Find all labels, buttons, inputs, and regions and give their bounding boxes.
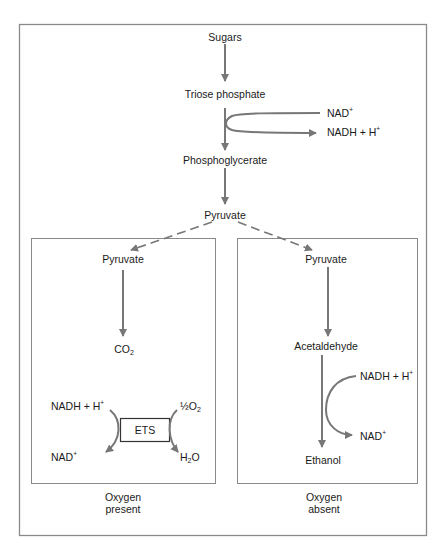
caption-oxygen-present-1: Oxygen xyxy=(105,491,141,503)
nad-text: NAD xyxy=(327,107,349,119)
arrow-nadh-to-nad-via-ets xyxy=(106,410,119,452)
co2-sub: 2 xyxy=(130,349,134,356)
label-nad-plus-anaerobic: NAD+ xyxy=(360,430,386,442)
plus-sup: + xyxy=(376,125,380,132)
label-triose-phosphate: Triose phosphate xyxy=(185,88,266,100)
nad-text: NAD xyxy=(360,430,382,442)
plus-sup: + xyxy=(409,369,413,376)
label-phosphoglycerate: Phosphoglycerate xyxy=(183,154,267,166)
half-o2-text: ½O xyxy=(180,400,197,412)
dashed-arrow-to-aerobic xyxy=(131,222,212,250)
label-nadh-h-aerobic: NADH + H+ xyxy=(51,400,104,412)
nad-reduction-curve xyxy=(226,113,320,133)
diagram-canvas xyxy=(0,0,442,555)
label-nad-plus-aerobic: NAD+ xyxy=(51,451,77,463)
outer-frame xyxy=(20,25,427,536)
caption-oxygen-absent-1: Oxygen xyxy=(306,491,342,503)
label-h2o: H2O xyxy=(180,451,200,463)
label-half-o2: ½O2 xyxy=(180,400,201,412)
label-pyruvate-anaerobic: Pyruvate xyxy=(305,253,346,265)
label-pyruvate-aerobic: Pyruvate xyxy=(102,253,143,265)
label-sugars: Sugars xyxy=(208,31,241,43)
label-ets: ETS xyxy=(135,424,155,436)
nadh-text: NADH + H xyxy=(360,370,409,382)
label-acetaldehyde: Acetaldehyde xyxy=(294,340,358,352)
label-nadh-h-anaerobic: NADH + H+ xyxy=(360,370,413,382)
plus-sup: + xyxy=(382,429,386,436)
label-nadh-h-top: NADH + H+ xyxy=(327,126,380,138)
arrow-o2-to-h2o-via-ets xyxy=(170,410,178,452)
label-pyruvate-main: Pyruvate xyxy=(204,209,245,221)
caption-oxygen-absent-2: absent xyxy=(308,503,340,515)
nadh-text: NADH + H xyxy=(327,126,376,138)
plus-sup: + xyxy=(73,450,77,457)
label-co2: CO2 xyxy=(114,343,134,355)
plus-sup: + xyxy=(100,399,104,406)
co2-text: CO xyxy=(114,343,130,355)
label-nad-plus-top: NAD+ xyxy=(327,107,353,119)
label-ethanol: Ethanol xyxy=(305,454,341,466)
arrow-nadh-to-nad-anaerobic xyxy=(326,376,356,435)
o-text: O xyxy=(192,451,200,463)
o2-sub: 2 xyxy=(197,406,201,413)
h-text: H xyxy=(180,451,188,463)
caption-oxygen-present-2: present xyxy=(105,503,140,515)
plus-sup: + xyxy=(349,106,353,113)
dashed-arrow-to-anaerobic xyxy=(238,222,312,250)
nadh-text: NADH + H xyxy=(51,400,100,412)
nad-text: NAD xyxy=(51,451,73,463)
